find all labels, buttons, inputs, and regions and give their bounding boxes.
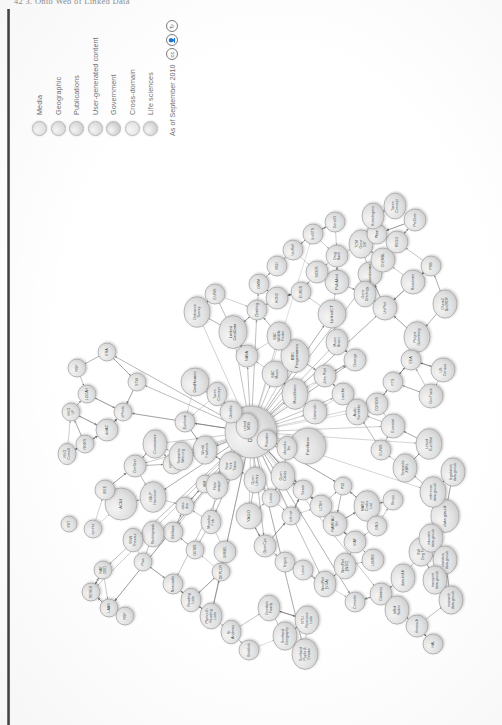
graph-node[interactable]: PubMed [325, 270, 349, 294]
graph-node[interactable]: Lexvo [293, 560, 313, 580]
graph-node[interactable]: IEEE [95, 480, 115, 500]
graph-node[interactable]: BBCWildlifeFinder [267, 322, 291, 350]
graph-node[interactable]: BibBase [163, 522, 183, 542]
graph-node[interactable]: IRIT [61, 516, 77, 532]
graph-node[interactable]: EUNIS [371, 440, 391, 460]
graph-node[interactable]: referencedata.gov.uk [420, 477, 446, 508]
graph-node[interactable]: Chem2Bio2RDF [433, 290, 457, 318]
graph-node[interactable]: datadcs [176, 497, 194, 515]
graph-node[interactable]: researchdata.gov.uk [439, 586, 463, 614]
graph-node[interactable]: eprints [84, 520, 102, 538]
graph-node[interactable]: Courseware [143, 430, 167, 458]
graph-node[interactable]: MusicBrainz [282, 379, 308, 410]
graph-node[interactable]: RISKS [76, 435, 94, 453]
graph-node[interactable]: Climbing [247, 300, 267, 320]
graph-node[interactable]: Pokedex [257, 430, 277, 450]
graph-node[interactable]: CORDIS [366, 393, 388, 415]
graph-node[interactable]: WordNet(W3C) [334, 553, 356, 579]
graph-node[interactable]: UniRef [283, 240, 303, 260]
graph-node[interactable]: VIAF [344, 531, 366, 553]
graph-node[interactable]: LAAS [100, 599, 118, 617]
graph-node[interactable]: NSF [68, 359, 86, 377]
graph-node[interactable]: GoodwinFamily [258, 595, 280, 621]
graph-node[interactable]: Eurécom [175, 412, 195, 432]
graph-node[interactable]: dbpedialite [277, 436, 297, 460]
graph-node[interactable]: Cornetto [345, 592, 365, 612]
graph-node[interactable]: LinkedCT [318, 300, 346, 328]
graph-node[interactable]: NSF [116, 607, 134, 625]
graph-node[interactable]: Pisa [134, 553, 152, 571]
graph-node[interactable]: ePrints [114, 403, 132, 421]
graph-node[interactable]: Uberblic [220, 401, 242, 423]
graph-node[interactable]: CiteSeer [124, 455, 146, 477]
graph-node[interactable]: Rechtspraak [142, 521, 164, 547]
graph-node[interactable]: RESEX [82, 583, 100, 601]
graph-node[interactable]: PlymouthReadingLists [200, 603, 222, 629]
graph-node[interactable]: GND [367, 516, 387, 536]
graph-node[interactable]: St.Andrews [221, 620, 241, 644]
graph-node[interactable]: P20 [334, 477, 352, 495]
graph-node[interactable]: OpenCalais [271, 462, 295, 490]
graph-node[interactable]: ScotlandPupils &Exams [292, 639, 318, 670]
graph-node[interactable]: AudioScrobbler [346, 399, 368, 425]
graph-node[interactable]: IdRefSudoc [385, 596, 409, 624]
graph-node[interactable]: ProDom [404, 209, 426, 231]
graph-node[interactable]: NTUResourceLists [295, 606, 319, 634]
graph-node[interactable]: FTS [383, 372, 403, 392]
graph-node[interactable]: Homologene [362, 203, 384, 229]
graph-node[interactable]: HGNC [266, 287, 288, 309]
graph-node[interactable]: TaxonConcept [384, 193, 406, 219]
graph-node[interactable]: RAE2001 [94, 561, 112, 579]
graph-node[interactable]: Lotico [262, 489, 280, 507]
graph-node[interactable]: Jamendo [303, 400, 327, 424]
graph-node[interactable]: Reactome [401, 270, 425, 294]
graph-node[interactable]: ProjectGutenberg [404, 322, 430, 353]
graph-node[interactable]: LOCAH [78, 385, 96, 403]
graph-node[interactable]: Bricklink [239, 640, 259, 660]
graph-node[interactable]: SemanticWeb.org [169, 442, 193, 470]
graph-node[interactable]: EURES [291, 282, 311, 302]
graph-node[interactable]: Eurostat [381, 414, 405, 438]
graph-node[interactable]: UMBEL [214, 541, 236, 563]
graph-node[interactable]: OrdnanceSurvey [184, 297, 210, 328]
graph-node[interactable]: ERA [98, 343, 116, 361]
graph-node[interactable]: Flickrwrappr [206, 473, 228, 499]
graph-node[interactable]: MGI [267, 256, 287, 276]
graph-node[interactable]: TaxonConcept [207, 382, 227, 406]
graph-node[interactable]: GovTrack [419, 384, 443, 408]
graph-node[interactable]: KEGG [386, 231, 408, 253]
graph-node[interactable]: legislationdata.gov.uk [441, 458, 465, 486]
graph-node[interactable]: YAGO [236, 503, 262, 529]
graph-node[interactable]: NASA [236, 345, 258, 367]
graph-node[interactable]: DrugBank [326, 245, 348, 267]
graph-node[interactable]: MusicBrainz [326, 329, 348, 355]
graph-node[interactable]: Sears [293, 480, 313, 500]
graph-node[interactable]: GeneID [325, 212, 345, 232]
graph-node[interactable]: John Peel [314, 365, 336, 387]
graph-node[interactable]: totl.net [282, 507, 300, 525]
graph-node[interactable]: MoseleyFolk [201, 510, 221, 534]
graph-node[interactable]: DBLPHannover [140, 482, 166, 513]
graph-node[interactable]: UniProt [373, 296, 397, 320]
graph-node[interactable]: ReadingLists [181, 588, 201, 612]
graph-node[interactable]: lingvoj [275, 552, 295, 572]
graph-node[interactable]: VIVOUF [62, 403, 80, 421]
graph-node[interactable]: theses.fr [406, 615, 428, 637]
graph-node[interactable]: SemanticXBRL [393, 454, 417, 482]
graph-node[interactable]: LinkedEuroStat [416, 429, 442, 460]
graph-node[interactable]: Revyu [383, 490, 403, 510]
graph-node[interactable]: data.bnf.fr [391, 564, 415, 592]
graph-node[interactable]: ScotlandGeography [273, 622, 297, 650]
graph-node[interactable]: HAL [423, 634, 443, 654]
graph-node[interactable]: DEPLOY [212, 563, 230, 581]
graph-node[interactable]: Discogs [344, 349, 366, 371]
graph-node[interactable]: SIDER [306, 261, 328, 283]
graph-node[interactable]: USCensus [431, 358, 455, 382]
graph-node[interactable]: VIVOCornell [58, 443, 76, 464]
graph-node[interactable]: Newcastle [163, 574, 183, 594]
graph-node[interactable]: dotAC [96, 419, 118, 441]
graph-node[interactable]: GeneOntology [354, 281, 376, 307]
graph-node[interactable]: PDB [421, 256, 441, 276]
graph-node[interactable]: EEA [401, 350, 421, 370]
graph-node[interactable]: WorldFactbook [193, 436, 217, 464]
